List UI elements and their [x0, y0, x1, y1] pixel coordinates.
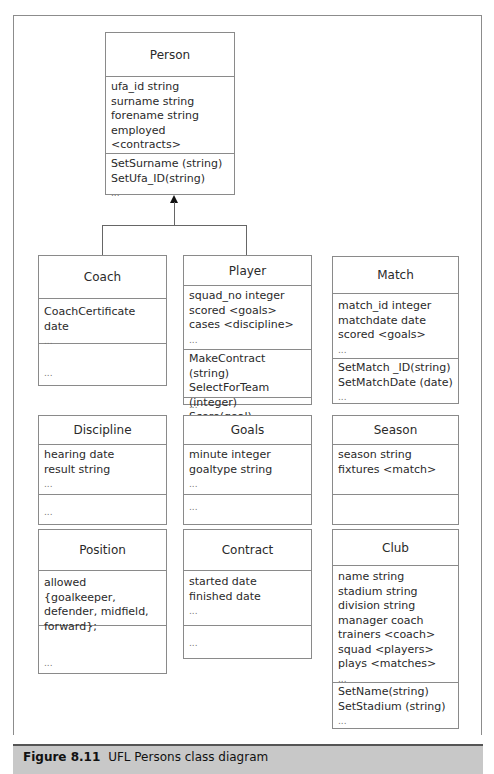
attribute: scored <goals> [338, 328, 453, 343]
attribute: scored <goals> [189, 304, 306, 319]
attribute: defender, midfield, [44, 605, 161, 620]
class-name: Club [333, 530, 458, 566]
attribute: ufa_id string [111, 80, 229, 95]
class-name: Person [106, 33, 234, 77]
class-name: Match [333, 257, 458, 294]
attribute: matchdate date [338, 314, 453, 329]
class-attributes: allowed {goalkeeper, defender, midfield,… [39, 571, 166, 625]
figure-caption-text: UFL Persons class diagram [108, 750, 268, 764]
ellipsis: ... [338, 714, 453, 729]
class-operations: SetMatch _ID(string) SetMatchDate (date)… [333, 358, 458, 408]
attribute: result string [44, 463, 161, 478]
attribute: plays <matches> [338, 657, 453, 672]
class-name: Season [333, 416, 458, 445]
figure-caption: Figure 8.11 UFL Persons class diagram [13, 744, 483, 774]
class-name: Discipline [39, 416, 166, 445]
ellipsis: ... [44, 477, 161, 492]
attribute: surname string [111, 95, 229, 110]
ellipsis: ... [44, 366, 161, 381]
connector-line [102, 225, 103, 256]
class-operations: SetName(string) SetStadium (string) ... [333, 682, 458, 732]
class-name: Goals [184, 416, 311, 445]
operation: SetStadium (string) [338, 700, 453, 715]
ellipsis: ... [44, 656, 161, 671]
class-discipline: Discipline hearing date result string ..… [38, 415, 167, 525]
attribute: squad_no integer [189, 289, 306, 304]
attribute: match_id integer [338, 299, 453, 314]
attribute: name string [338, 570, 453, 585]
attribute: trainers <coach> [338, 628, 453, 643]
class-coach: Coach CoachCertificate date ... ... [38, 255, 167, 386]
class-person: Person ufa_id string surname string fore… [105, 32, 235, 195]
class-match: Match match_id integer matchdate date sc… [332, 256, 459, 404]
operation: SetMatch _ID(string) [338, 361, 453, 376]
attribute: finished date [189, 590, 306, 605]
ellipsis: ... [44, 505, 161, 520]
attribute: forename string [111, 109, 229, 124]
class-operations: ... [39, 343, 166, 384]
connector-line [174, 202, 175, 225]
class-attributes: name string stadium string division stri… [333, 566, 458, 682]
attribute: fixtures <match> [338, 463, 453, 478]
class-attributes: ufa_id string surname string forename st… [106, 77, 234, 153]
class-attributes: match_id integer matchdate date scored <… [333, 294, 458, 358]
ellipsis: ... [189, 500, 306, 515]
operation: SetName(string) [338, 685, 453, 700]
operation: SetUfa_ID(string) [111, 172, 229, 187]
class-name: Coach [39, 256, 166, 299]
class-club: Club name string stadium string division… [332, 529, 459, 729]
class-player: Player squad_no integer scored <goals> c… [183, 255, 312, 405]
attribute: hearing date [44, 448, 161, 463]
attribute: cases <discipline> [189, 318, 306, 333]
class-attributes: started date finished date ... [184, 571, 311, 625]
attribute: started date [189, 575, 306, 590]
class-attributes: CoachCertificate date ... [39, 299, 166, 343]
class-operations: ... [39, 494, 166, 523]
class-operations: ... [184, 494, 311, 518]
class-season: Season season string fixtures <match> [332, 415, 459, 525]
class-attributes: minute integer goaltype string ... [184, 445, 311, 494]
class-contract: Contract started date finished date ... … [183, 529, 312, 659]
ellipsis: ... [189, 477, 306, 492]
ellipsis: ... [189, 636, 306, 651]
class-operations: ... [184, 625, 311, 654]
class-goals: Goals minute integer goaltype string ...… [183, 415, 312, 525]
connector-line [246, 225, 247, 256]
ellipsis: ... [189, 333, 306, 348]
class-attributes: squad_no integer scored <goals> cases <d… [184, 286, 311, 349]
attribute: employed <contracts> [111, 124, 229, 153]
attribute: minute integer [189, 448, 306, 463]
attribute: division string [338, 599, 453, 614]
attribute: CoachCertificate date [44, 305, 161, 334]
connector-line [102, 225, 247, 226]
class-attributes: hearing date result string ... [39, 445, 166, 494]
class-name: Player [184, 256, 311, 286]
operation: SetSurname (string) [111, 157, 229, 172]
class-operations: MakeContract (string) SelectForTeam (int… [184, 349, 311, 397]
ellipsis: ... [338, 343, 453, 358]
ellipsis: ... [338, 390, 453, 405]
class-position: Position allowed {goalkeeper, defender, … [38, 529, 167, 674]
class-name: Contract [184, 530, 311, 571]
attribute: squad <players> [338, 643, 453, 658]
attribute: goaltype string [189, 463, 306, 478]
attribute: stadium string [338, 585, 453, 600]
class-name: Position [39, 530, 166, 571]
attribute: allowed {goalkeeper, [44, 576, 161, 605]
attribute: season string [338, 448, 453, 463]
operation: MakeContract (string) [189, 352, 306, 381]
operation: SetMatchDate (date) [338, 376, 453, 391]
ellipsis: ... [189, 604, 306, 619]
class-attributes: season string fixtures <match> [333, 445, 458, 494]
class-operations [333, 494, 458, 501]
attribute: manager coach [338, 614, 453, 629]
figure-label: Figure 8.11 [23, 750, 100, 764]
